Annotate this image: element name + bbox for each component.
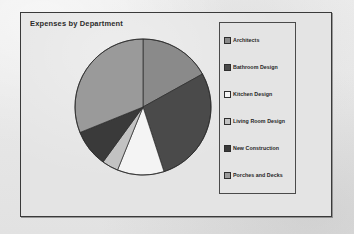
legend-item[interactable]: Bathroom Design (220, 63, 295, 73)
legend-list: ArchitectsBathroom DesignKitchen DesignL… (220, 23, 295, 193)
legend-item-label: Bathroom Design (233, 65, 278, 70)
legend-swatch-icon (224, 64, 231, 71)
pie-chart-svg (73, 37, 213, 177)
legend-item-label: Kitchen Design (233, 92, 272, 97)
legend-item-label: New Construction (233, 146, 279, 151)
legend-swatch-icon (224, 145, 231, 152)
pie-chart (73, 37, 213, 177)
legend-swatch-icon (224, 172, 231, 179)
legend-item-label: Architects (233, 38, 259, 43)
legend-item[interactable]: Living Room Design (220, 117, 295, 127)
legend-item[interactable]: Porches and Decks (220, 171, 295, 181)
legend-item[interactable]: Architects (220, 36, 295, 46)
chart-title: Expenses by Department (30, 19, 123, 28)
legend-swatch-icon (224, 91, 231, 98)
legend-item[interactable]: New Construction (220, 144, 295, 154)
legend-item-label: Living Room Design (233, 119, 285, 124)
legend-item-label: Porches and Decks (233, 173, 283, 178)
legend-item[interactable]: Kitchen Design (220, 90, 295, 100)
chart-legend: ArchitectsBathroom DesignKitchen DesignL… (219, 22, 296, 194)
legend-swatch-icon (224, 118, 231, 125)
legend-swatch-icon (224, 37, 231, 44)
chart-frame: Expenses by Department ArchitectsBathroo… (20, 12, 332, 217)
